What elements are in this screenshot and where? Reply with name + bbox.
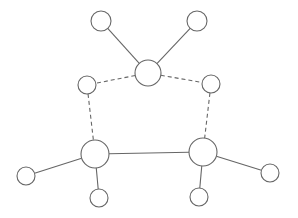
edge-right-mid-to-bottom-right-hub (205, 93, 210, 138)
node-top-left-leaf (91, 11, 111, 31)
node-right-mid (202, 75, 220, 93)
edge-top-right-leaf-to-center-hub (157, 28, 190, 63)
node-bottom-left-hub (81, 140, 109, 168)
edge-center-hub-to-right-mid (161, 75, 202, 82)
node-top-right-leaf (187, 11, 207, 31)
node-far-left-leaf (17, 167, 35, 185)
edge-bottom-right-hub-to-far-right-leaf (216, 156, 261, 170)
node-bottom-left-leaf (90, 189, 108, 207)
graph-diagram (0, 0, 298, 218)
edge-bottom-left-hub-to-far-left-leaf (35, 158, 82, 173)
edge-top-left-leaf-to-center-hub (108, 28, 140, 63)
edge-bottom-left-hub-to-bottom-left-leaf (96, 168, 98, 189)
edges-layer (35, 28, 262, 189)
nodes-layer (17, 11, 279, 207)
node-center-hub (135, 60, 161, 86)
edge-bottom-left-hub-to-bottom-right-hub (109, 152, 189, 153)
node-left-mid (78, 76, 96, 94)
edge-left-mid-to-bottom-left-hub (88, 94, 93, 140)
node-bottom-right-leaf (190, 188, 208, 206)
node-bottom-right-hub (189, 138, 217, 166)
node-far-right-leaf (261, 164, 279, 182)
edge-bottom-right-hub-to-bottom-right-leaf (200, 166, 202, 188)
edge-center-hub-to-left-mid (96, 76, 135, 84)
